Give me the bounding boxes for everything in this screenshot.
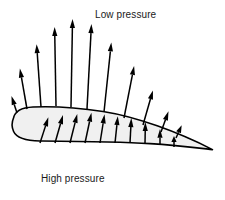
arrow-head (130, 66, 135, 75)
arrow-shaft (124, 75, 132, 118)
arrow-head (11, 96, 16, 105)
high-pressure-label: High pressure (41, 173, 105, 184)
arrow-shaft (14, 104, 17, 113)
arrow-shaft (130, 127, 131, 143)
low-pressure-arrow (52, 27, 57, 106)
arrow-shaft (143, 99, 150, 125)
low-pressure-arrow (104, 42, 113, 112)
arrow-head (88, 24, 93, 33)
arrow-head (70, 19, 75, 28)
arrow-head (176, 125, 182, 133)
low-pressure-arrow (19, 69, 27, 109)
arrow-shaft (87, 33, 91, 109)
arrow-shaft (21, 77, 27, 109)
diagram-canvas (0, 0, 225, 200)
low-pressure-arrow (124, 66, 135, 118)
low-pressure-arrow (70, 19, 75, 107)
low-pressure-arrow (11, 96, 17, 113)
arrow-head (108, 42, 113, 51)
low-pressure-arrow (87, 24, 94, 109)
arrow-shaft (71, 28, 72, 107)
arrow-shaft (104, 51, 110, 112)
arrow-shaft (37, 53, 41, 107)
low-pressure-arrow (35, 44, 41, 107)
arrow-head (148, 90, 153, 99)
arrow-shaft (55, 36, 56, 106)
arrow-head (52, 27, 57, 36)
arrow-head (163, 111, 169, 120)
airfoil-outline (12, 107, 212, 150)
arrow-head (35, 44, 40, 53)
low-pressure-label: Low pressure (95, 9, 156, 20)
airfoil-group (12, 107, 212, 150)
arrow-head (19, 69, 24, 78)
low-pressure-arrow (143, 90, 153, 125)
airfoil-pressure-diagram: Low pressure High pressure (0, 0, 225, 200)
